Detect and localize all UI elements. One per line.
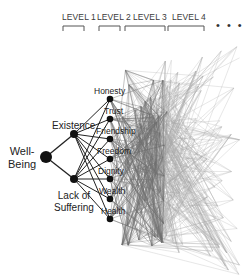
lack-of-suffering-line1: Lack of: [54, 190, 94, 202]
level-1-label: LEVEL 1: [62, 12, 96, 22]
honesty-label: Honesty: [94, 86, 125, 96]
friendship-node: [107, 136, 114, 143]
dignity-node: [107, 176, 114, 183]
health-label: Health: [101, 206, 126, 216]
level-2-bracket: [99, 26, 120, 31]
level-4-bracket: [168, 26, 204, 31]
health-node: [107, 216, 114, 223]
level-2-label: LEVEL 2: [97, 12, 131, 22]
honesty-node: [107, 96, 114, 103]
level-4-label: LEVEL 4: [172, 12, 206, 22]
well-being-hierarchy-diagram: [0, 0, 246, 279]
trust-node: [107, 116, 114, 123]
wealth-label: Wealth: [99, 186, 125, 196]
dignity-label: Dignity: [98, 166, 124, 176]
lack-of-suffering-label: Lack of Suffering: [54, 190, 94, 214]
level-1-bracket: [63, 26, 84, 31]
level-3-bracket: [125, 26, 165, 31]
root-label-line1: Well-: [8, 145, 36, 158]
root-node-label: Well- Being: [8, 145, 36, 171]
root-label-line2: Being: [8, 158, 36, 171]
more-levels-ellipsis: • • •: [216, 19, 244, 31]
level-3-label: LEVEL 3: [133, 12, 167, 22]
lack-of-suffering-node: [70, 175, 78, 183]
well-being-node: [40, 151, 52, 163]
level-brackets: [63, 26, 204, 31]
existence-label: Existence: [52, 120, 95, 132]
wealth-node: [107, 196, 114, 203]
trust-label: Trust: [104, 106, 123, 116]
friendship-label: Friendship: [96, 126, 136, 136]
lack-of-suffering-line2: Suffering: [54, 202, 94, 214]
freedom-label: Freedom: [97, 146, 131, 156]
freedom-node: [107, 156, 114, 163]
network-mesh-edges: [110, 47, 240, 275]
